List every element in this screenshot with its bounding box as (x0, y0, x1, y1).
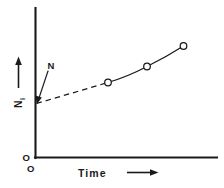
origin-label-upper: O (23, 152, 30, 163)
y-axis-label-main: N (12, 100, 24, 108)
data-point-marker (105, 79, 112, 86)
y-axis-label-subscript: i (19, 98, 26, 100)
annotation-label-n: N (48, 60, 55, 71)
data-point-marker (180, 43, 187, 50)
y-axis-label-group: N i (12, 98, 26, 108)
figure-container: N i N Time O O (0, 0, 224, 188)
plot-canvas: N i N Time O O (0, 0, 224, 188)
x-axis-direction-arrow-head (150, 169, 159, 176)
y-axis-direction-arrow-head (15, 57, 22, 66)
data-point-marker (144, 63, 151, 70)
extrapolated-dashed-line (37, 83, 109, 104)
annotation-leader-line (39, 71, 48, 98)
origin-label-lower: O (27, 163, 34, 174)
x-axis-title: Time (78, 167, 107, 179)
